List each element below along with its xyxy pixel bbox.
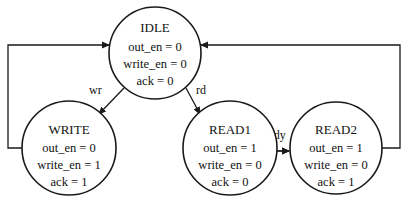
edge-label-wr: wr xyxy=(89,83,102,97)
state-diagram: wr rd ready IDLE out_en = 0 write_en = 0… xyxy=(0,0,408,200)
state-output: write_en = 0 xyxy=(304,158,367,172)
state-write: WRITE out_en = 0 write_en = 1 ack = 1 xyxy=(22,101,116,195)
state-output: write_en = 1 xyxy=(37,158,100,172)
state-output: write_en = 0 xyxy=(123,57,186,71)
state-output: out_en = 1 xyxy=(309,141,363,155)
state-output: ack = 0 xyxy=(212,175,249,189)
state-output: out_en = 1 xyxy=(203,141,257,155)
state-name: IDLE xyxy=(140,20,170,35)
edge-label-rd: rd xyxy=(196,83,206,97)
state-name: READ2 xyxy=(315,122,357,137)
state-read1: READ1 out_en = 1 write_en = 0 ack = 0 xyxy=(183,101,277,195)
state-name: READ1 xyxy=(209,122,251,137)
state-output: ack = 1 xyxy=(318,175,355,189)
state-name: WRITE xyxy=(48,122,89,137)
state-output: ack = 1 xyxy=(51,175,88,189)
state-read2: READ2 out_en = 1 write_en = 0 ack = 1 xyxy=(290,102,382,194)
state-idle: IDLE out_en = 0 write_en = 0 ack = 0 xyxy=(109,7,201,99)
state-output: ack = 0 xyxy=(137,74,174,88)
state-output: write_en = 0 xyxy=(198,158,261,172)
state-output: out_en = 0 xyxy=(128,40,182,54)
state-output: out_en = 0 xyxy=(42,141,96,155)
diagram-svg: wr rd ready IDLE out_en = 0 write_en = 0… xyxy=(0,0,408,200)
